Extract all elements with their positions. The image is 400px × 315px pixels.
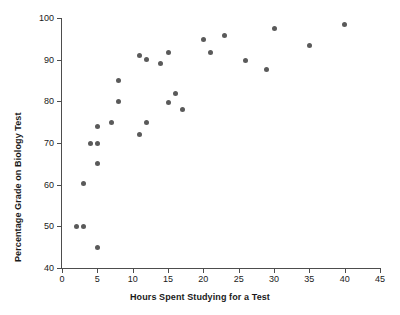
x-axis-tick-label: 10 xyxy=(128,274,138,284)
data-point xyxy=(74,224,79,229)
data-point xyxy=(180,107,185,112)
data-point xyxy=(95,161,100,166)
x-axis-tick xyxy=(133,268,134,273)
y-axis-tick xyxy=(57,60,62,61)
data-point xyxy=(144,120,149,125)
x-axis-tick-label: 30 xyxy=(269,274,279,284)
data-point xyxy=(95,124,100,129)
x-axis-tick xyxy=(62,268,63,273)
y-axis-title: Percentage Grade on Biology Test xyxy=(13,112,23,262)
data-point xyxy=(173,91,178,96)
y-axis-tick-label: 60 xyxy=(44,180,54,190)
data-point xyxy=(222,33,227,38)
x-axis-tick-label: 5 xyxy=(95,274,100,284)
data-point xyxy=(81,181,86,186)
x-axis-line xyxy=(61,268,381,269)
data-point xyxy=(272,26,277,31)
x-axis-tick xyxy=(168,268,169,273)
data-point xyxy=(137,132,142,137)
x-axis-tick xyxy=(380,268,381,273)
plot-area: 405060708090100051015202530354045 xyxy=(62,18,380,268)
y-axis-tick-label: 70 xyxy=(44,138,54,148)
y-axis-tick-label: 50 xyxy=(44,221,54,231)
y-axis-tick-label: 90 xyxy=(44,55,54,65)
data-point xyxy=(95,141,100,146)
x-axis-tick xyxy=(274,268,275,273)
data-point xyxy=(109,120,114,125)
y-axis-tick-label: 100 xyxy=(39,13,54,23)
x-axis-tick xyxy=(309,268,310,273)
x-axis-tick-label: 25 xyxy=(234,274,244,284)
x-axis-tick xyxy=(203,268,204,273)
y-axis-tick xyxy=(57,101,62,102)
data-point xyxy=(208,50,213,55)
data-point xyxy=(264,67,269,72)
y-axis-tick xyxy=(57,226,62,227)
x-axis-tick xyxy=(97,268,98,273)
scatter-chart: Percentage Grade on Biology Test Hours S… xyxy=(0,0,400,315)
x-axis-tick-label: 35 xyxy=(304,274,314,284)
y-axis-tick xyxy=(57,185,62,186)
y-axis-tick xyxy=(57,143,62,144)
data-point xyxy=(201,37,206,42)
x-axis-tick-label: 20 xyxy=(198,274,208,284)
y-axis-tick xyxy=(57,18,62,19)
x-axis-tick xyxy=(239,268,240,273)
data-point xyxy=(166,50,171,55)
x-axis-tick-label: 0 xyxy=(59,274,64,284)
data-point xyxy=(116,78,121,83)
data-point xyxy=(342,22,347,27)
x-axis-tick-label: 45 xyxy=(375,274,385,284)
data-point xyxy=(307,43,312,48)
y-axis-tick-label: 80 xyxy=(44,96,54,106)
data-point xyxy=(88,141,93,146)
data-point xyxy=(81,224,86,229)
x-axis-title: Hours Spent Studying for a Test xyxy=(0,292,400,302)
data-point xyxy=(166,100,171,105)
data-point xyxy=(95,245,100,250)
data-point xyxy=(116,99,121,104)
data-point xyxy=(243,58,248,63)
data-point xyxy=(137,53,142,58)
x-axis-tick-label: 40 xyxy=(340,274,350,284)
data-point xyxy=(158,61,163,66)
x-axis-tick-label: 15 xyxy=(163,274,173,284)
x-axis-tick xyxy=(345,268,346,273)
data-point xyxy=(144,57,149,62)
y-axis-tick-label: 40 xyxy=(44,263,54,273)
